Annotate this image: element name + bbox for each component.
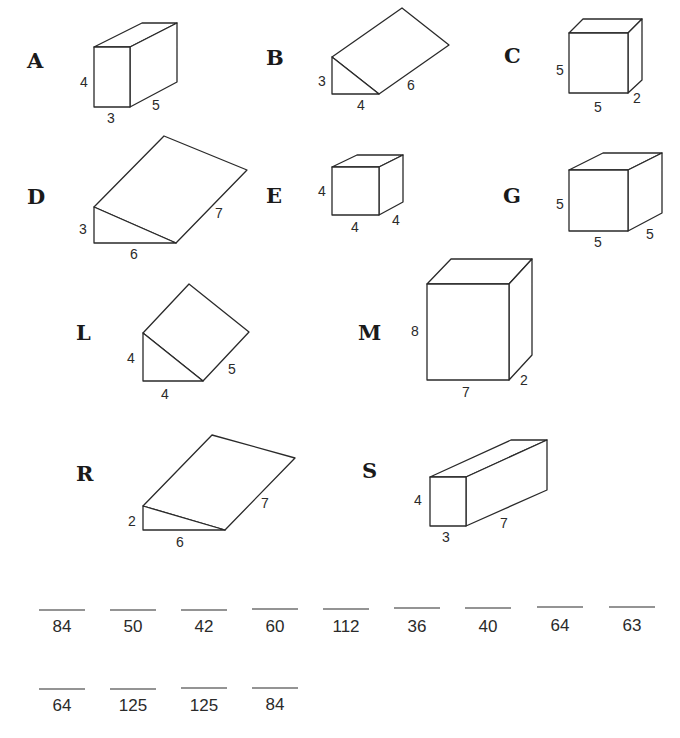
answer-value: 125 (119, 696, 147, 715)
shape-d: D 3 6 7 (27, 136, 247, 262)
dimension-height: 4 (318, 183, 326, 199)
answer-blank[interactable]: 125 (110, 689, 156, 715)
answer-blank[interactable]: 84 (252, 688, 298, 714)
answer-blank[interactable]: 64 (537, 607, 583, 635)
answer-value: 42 (195, 617, 214, 636)
prism-front-face (430, 477, 466, 526)
dimension-length: 7 (261, 495, 269, 511)
answer-blank[interactable]: 64 (39, 689, 85, 715)
prism-side-face (628, 19, 642, 93)
shape-letter: L (76, 320, 91, 345)
shape-m: M 8 7 2 (358, 259, 532, 400)
prism-front-face (94, 47, 130, 107)
dimension-height: 5 (556, 196, 564, 212)
dimension-height: 3 (79, 221, 87, 237)
shape-a: A 4 3 5 (26, 23, 177, 126)
shape-letter: R (76, 461, 94, 486)
answer-blank[interactable]: 50 (110, 610, 156, 636)
answer-blank[interactable]: 42 (181, 610, 227, 636)
prism-front-face (569, 33, 628, 93)
shape-b: B 3 4 6 (266, 8, 449, 113)
dimension-width: 4 (351, 219, 359, 235)
dimension-depth: 2 (520, 372, 528, 388)
shape-letter: B (266, 45, 284, 70)
answer-value: 112 (332, 617, 359, 636)
dimension-height: 4 (414, 492, 422, 508)
answer-blank[interactable]: 112 (323, 609, 369, 636)
dimension-width: 5 (594, 234, 602, 250)
answer-row-2: 64 125 125 84 (39, 688, 298, 715)
answer-blank[interactable]: 36 (394, 608, 440, 636)
answer-row-1: 84 50 42 60 112 36 40 64 63 (39, 607, 655, 636)
dimension-height: 4 (127, 350, 135, 366)
answer-value: 63 (623, 616, 642, 635)
answer-value: 125 (190, 696, 218, 715)
answer-value: 84 (53, 617, 72, 636)
dimension-height: 5 (556, 62, 564, 78)
dimension-width: 3 (107, 110, 115, 126)
dimension-length: 5 (152, 97, 160, 113)
dimension-depth: 2 (633, 90, 641, 106)
answer-value: 84 (266, 695, 285, 714)
dimension-width: 5 (594, 99, 602, 115)
volume-worksheet: A 4 3 5 B 3 4 6 C 5 5 2 D 3 6 7 E (0, 0, 680, 738)
dimension-width: 3 (442, 529, 450, 545)
shape-l: L 4 4 5 (76, 284, 249, 402)
shape-r: R 2 6 7 (76, 435, 295, 550)
shape-c: C 5 5 2 (504, 19, 642, 115)
dimension-length: 5 (228, 361, 236, 377)
dimension-height: 4 (80, 74, 88, 90)
answer-value: 64 (551, 616, 570, 635)
prism-front-face (569, 170, 628, 231)
answer-blank[interactable]: 63 (609, 607, 655, 635)
dimension-height: 3 (318, 73, 326, 89)
dimension-height: 2 (128, 513, 136, 529)
shape-letter: C (504, 43, 521, 68)
answer-blank[interactable]: 60 (252, 609, 298, 636)
prism-front-face (332, 167, 379, 215)
dimension-height: 8 (411, 323, 419, 339)
answer-value: 64 (53, 696, 72, 715)
answer-blank[interactable]: 125 (181, 688, 227, 715)
shape-letter: G (503, 183, 521, 208)
answer-blank[interactable]: 40 (465, 608, 511, 636)
dimension-length: 7 (215, 205, 223, 221)
shape-letter: A (26, 48, 44, 73)
answer-value: 40 (479, 617, 498, 636)
answer-value: 36 (408, 617, 427, 636)
dimension-depth: 5 (646, 226, 654, 242)
answer-value: 60 (266, 617, 285, 636)
shape-letter: M (358, 320, 381, 345)
dimension-length: 7 (500, 515, 508, 531)
shape-letter: D (27, 184, 45, 209)
shape-g: G 5 5 5 (503, 153, 662, 250)
dimension-base: 6 (176, 534, 184, 550)
dimension-base: 4 (161, 386, 169, 402)
answer-value: 50 (124, 617, 143, 636)
dimension-depth: 4 (392, 212, 400, 228)
shape-s: S 4 3 7 (362, 440, 547, 545)
prism-front-face (427, 284, 509, 380)
dimension-base: 4 (357, 97, 365, 113)
dimension-base: 6 (130, 246, 138, 262)
shape-letter: E (266, 183, 282, 208)
shape-letter: S (362, 458, 377, 483)
dimension-length: 6 (407, 77, 415, 93)
shape-e: E 4 4 4 (266, 155, 403, 235)
dimension-width: 7 (462, 384, 470, 400)
answer-blank[interactable]: 84 (39, 610, 85, 636)
